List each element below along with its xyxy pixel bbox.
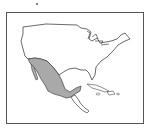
north-america-map [7,13,143,123]
jamaica [96,93,100,95]
puerto-rico [117,93,120,95]
marker-dot [36,3,38,5]
cuba [87,84,109,92]
hispaniola [107,91,115,95]
map-frame [6,12,144,124]
central-america [71,95,89,113]
